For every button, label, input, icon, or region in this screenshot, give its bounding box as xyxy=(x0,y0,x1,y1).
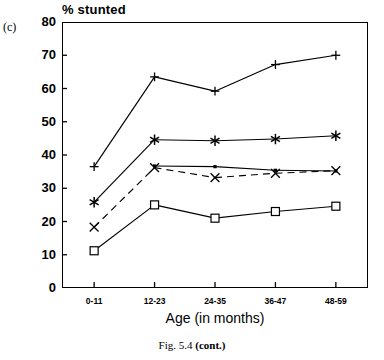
y-axis-title: % stunted xyxy=(62,2,126,17)
x-axis-tick-labels: 0-1112-2324-3536-4748-59 xyxy=(62,296,368,310)
y-axis-tick-label: 30 xyxy=(26,180,56,195)
y-axis-tick-label: 60 xyxy=(26,81,56,96)
caption-prefix: Fig. 5.4 xyxy=(159,339,196,351)
y-axis-tick-label: 40 xyxy=(26,147,56,162)
x-axis-tick-label: 48-59 xyxy=(325,296,347,306)
caption-cont: (cont.) xyxy=(195,339,225,351)
y-axis-tick-labels: 01020304050607080 xyxy=(22,22,56,288)
figure-page: (c) % stunted 01020304050607080 0-1112-2… xyxy=(0,0,384,360)
y-axis-tick-label: 70 xyxy=(26,47,56,62)
panel-label: (c) xyxy=(3,20,16,35)
x-axis-tick-label: 12-23 xyxy=(144,296,166,306)
y-axis-tick-label: 80 xyxy=(26,14,56,29)
x-axis-tick-label: 0-11 xyxy=(86,296,103,306)
x-axis-title: Age (in months) xyxy=(62,310,368,326)
y-axis-tick-label: 0 xyxy=(26,280,56,295)
x-axis-tick-label: 24-35 xyxy=(204,296,226,306)
y-axis-tick-label: 20 xyxy=(26,214,56,229)
figure-caption: Fig. 5.4 (cont.) xyxy=(0,339,384,351)
x-axis-tick-label: 36-47 xyxy=(265,296,287,306)
y-axis-tick-label: 10 xyxy=(26,247,56,262)
y-axis-tick-label: 50 xyxy=(26,114,56,129)
plot-frame xyxy=(62,22,368,288)
